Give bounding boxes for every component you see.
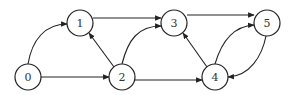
edge-5-to-4 — [228, 36, 266, 77]
node-1: 1 — [67, 10, 93, 36]
node-label: 0 — [25, 71, 32, 84]
edges-group — [28, 15, 266, 80]
node-4: 4 — [202, 64, 228, 90]
nodes-group: 012345 — [15, 10, 280, 90]
node-label: 3 — [171, 17, 178, 30]
edge-2-to-1 — [89, 33, 114, 67]
node-label: 1 — [77, 17, 84, 30]
node-5: 5 — [254, 10, 280, 36]
node-0: 0 — [15, 64, 41, 90]
edge-0-to-1 — [28, 24, 67, 64]
node-label: 4 — [212, 71, 219, 84]
edge-4-to-3 — [183, 33, 207, 67]
edge-2-to-3 — [122, 26, 161, 64]
node-2: 2 — [109, 64, 135, 90]
node-label: 5 — [264, 17, 271, 30]
graph-canvas: 012345 — [0, 0, 294, 95]
node-3: 3 — [161, 10, 187, 36]
edge-4-to-5 — [215, 25, 254, 64]
directed-graph-diagram: 012345 — [0, 0, 294, 95]
node-label: 2 — [119, 71, 126, 84]
